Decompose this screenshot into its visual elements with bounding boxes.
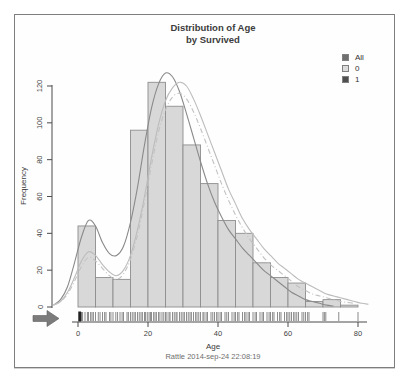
x-tick-label: 80 xyxy=(354,329,362,338)
histogram-bar xyxy=(113,279,131,307)
histogram-bar xyxy=(236,233,254,307)
y-tick-label: 100 xyxy=(36,117,45,130)
x-tick-label: 60 xyxy=(284,329,292,338)
y-tick-label: 20 xyxy=(36,266,45,274)
x-tick-label: 40 xyxy=(214,329,222,338)
histogram-plot: 020406080100120020406080 xyxy=(0,0,408,379)
x-tick-label: 20 xyxy=(144,329,152,338)
histogram-bar xyxy=(96,278,114,307)
screenshot-page: Distribution of Age by Survived All 0 1 … xyxy=(0,0,408,379)
histogram-bar xyxy=(166,106,184,307)
rug-tick-emphasis xyxy=(78,312,81,322)
rattle-timestamp: Rattle 2014-sep-24 22:08:19 xyxy=(52,352,374,361)
y-tick-label: 40 xyxy=(36,229,45,237)
y-tick-label: 0 xyxy=(36,305,45,309)
y-axis-title: Frequency xyxy=(15,178,31,194)
histogram-bar xyxy=(253,263,271,307)
y-tick-label: 80 xyxy=(36,155,45,163)
y-tick-label: 120 xyxy=(36,80,45,93)
x-tick-label: 0 xyxy=(76,329,80,338)
histogram-bar xyxy=(341,305,359,307)
histogram-bar xyxy=(183,145,201,307)
histogram-bar xyxy=(131,130,149,307)
y-tick-label: 60 xyxy=(36,192,45,200)
histogram-bar xyxy=(218,220,236,307)
histogram-bar xyxy=(148,82,166,307)
x-axis-title: Age xyxy=(52,342,374,351)
histogram-bar xyxy=(201,184,219,307)
annotation-arrow-icon xyxy=(33,311,59,327)
